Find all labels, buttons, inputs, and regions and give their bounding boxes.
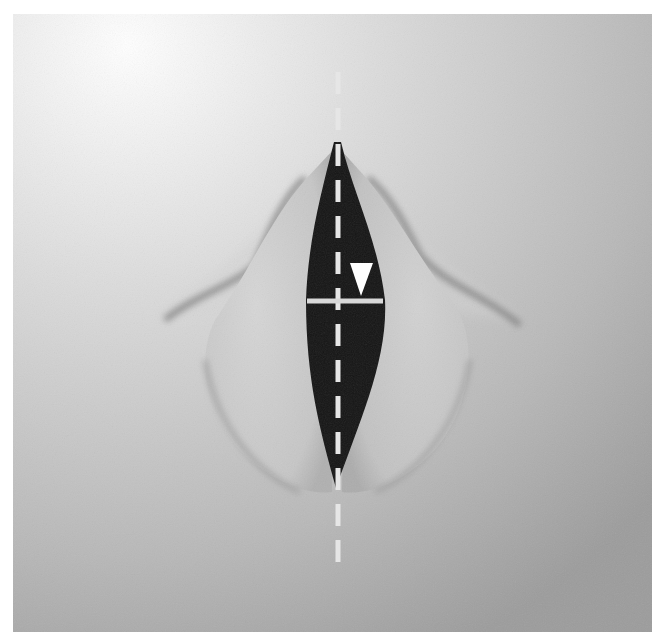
glottis-illustration (13, 14, 652, 632)
texture-overlay (13, 14, 652, 632)
figure-frame (13, 14, 652, 632)
